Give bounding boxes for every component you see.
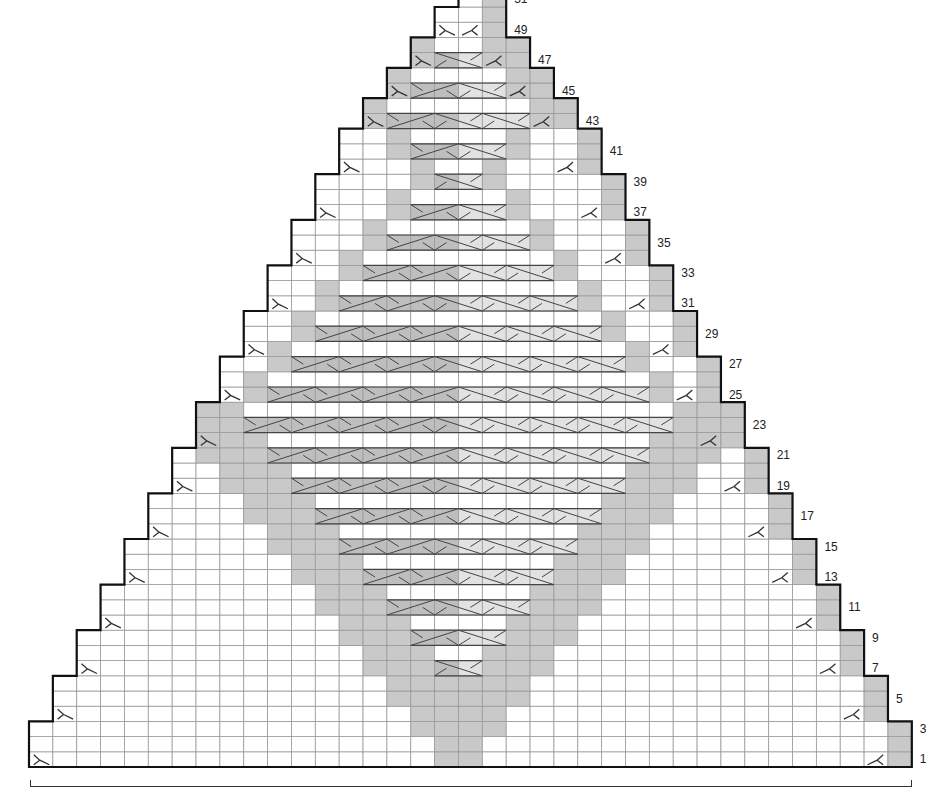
stitch-cell bbox=[482, 691, 506, 706]
stitch-cell bbox=[411, 37, 435, 52]
stitch-cell bbox=[482, 737, 506, 752]
stitch-cell bbox=[148, 615, 172, 630]
stitch-cell bbox=[435, 281, 459, 296]
stitch-cell bbox=[888, 721, 912, 736]
stitch-cell bbox=[578, 569, 602, 584]
stitch-cell bbox=[435, 311, 459, 326]
stitch-cell bbox=[315, 721, 339, 736]
stitch-cell bbox=[387, 433, 411, 448]
stitch-cell bbox=[602, 311, 626, 326]
stitch-cell bbox=[244, 372, 268, 387]
row-label: 17 bbox=[801, 510, 814, 522]
stitch-cell bbox=[244, 615, 268, 630]
stitch-cell bbox=[101, 721, 125, 736]
stitch-cell bbox=[458, 493, 482, 508]
stitch-cell bbox=[554, 433, 578, 448]
stitch-cell bbox=[268, 752, 292, 767]
stitch-cell bbox=[291, 752, 315, 767]
stitch-cell bbox=[339, 645, 363, 660]
stitch-cell bbox=[101, 585, 125, 600]
stitch-cell bbox=[721, 448, 745, 463]
stitch-cell bbox=[602, 554, 626, 569]
stitch-cell bbox=[745, 615, 769, 630]
stitch-cell bbox=[363, 220, 387, 235]
stitch-cell bbox=[291, 554, 315, 569]
stitch-cell bbox=[769, 600, 793, 615]
stitch-cell bbox=[578, 600, 602, 615]
stitch-cell bbox=[745, 539, 769, 554]
stitch-cell bbox=[506, 98, 530, 113]
stitch-cell bbox=[745, 706, 769, 721]
stitch-cell bbox=[387, 205, 411, 220]
stitch-cell bbox=[506, 433, 530, 448]
stitch-cell bbox=[124, 752, 148, 767]
stitch-cell bbox=[864, 721, 888, 736]
stitch-cell bbox=[745, 645, 769, 660]
stitch-cell bbox=[244, 311, 268, 326]
stitch-cell bbox=[435, 7, 459, 22]
stitch-cell bbox=[387, 311, 411, 326]
stitch-cell bbox=[458, 691, 482, 706]
stitch-cell bbox=[458, 98, 482, 113]
stitch-cell bbox=[626, 645, 650, 660]
stitch-cell bbox=[482, 493, 506, 508]
stitch-cell bbox=[697, 402, 721, 417]
stitch-cell bbox=[673, 737, 697, 752]
stitch-cell bbox=[196, 585, 220, 600]
stitch-cell bbox=[482, 37, 506, 52]
stitch-cell bbox=[339, 493, 363, 508]
stitch-cell bbox=[697, 752, 721, 767]
stitch-cell bbox=[315, 706, 339, 721]
stitch-cell bbox=[578, 721, 602, 736]
stitch-cell bbox=[411, 220, 435, 235]
stitch-cell bbox=[816, 676, 840, 691]
stitch-cell bbox=[530, 402, 554, 417]
stitch-cell bbox=[148, 600, 172, 615]
stitch-cell bbox=[268, 539, 292, 554]
stitch-cell bbox=[697, 387, 721, 402]
stitch-cell bbox=[196, 493, 220, 508]
stitch-cell bbox=[793, 554, 817, 569]
stitch-cell bbox=[315, 569, 339, 584]
stitch-cell bbox=[124, 645, 148, 660]
stitch-cell bbox=[339, 265, 363, 280]
stitch-cell bbox=[101, 661, 125, 676]
stitch-cell bbox=[530, 752, 554, 767]
stitch-cell bbox=[554, 235, 578, 250]
stitch-cell bbox=[602, 706, 626, 721]
stitch-cell bbox=[506, 463, 530, 478]
stitch-cell bbox=[626, 235, 650, 250]
stitch-cell bbox=[482, 311, 506, 326]
stitch-cell bbox=[721, 493, 745, 508]
stitch-cell bbox=[291, 372, 315, 387]
stitch-cell bbox=[458, 341, 482, 356]
stitch-cell bbox=[506, 159, 530, 174]
stitch-cell bbox=[458, 752, 482, 767]
stitch-cell bbox=[387, 737, 411, 752]
stitch-cell bbox=[649, 737, 673, 752]
stitch-cell bbox=[291, 737, 315, 752]
stitch-cell bbox=[244, 661, 268, 676]
stitch-cell bbox=[148, 509, 172, 524]
stitch-cell bbox=[363, 645, 387, 660]
stitch-cell bbox=[578, 402, 602, 417]
stitch-cell bbox=[148, 676, 172, 691]
stitch-cell bbox=[244, 463, 268, 478]
stitch-cell bbox=[482, 0, 506, 7]
stitch-cell bbox=[745, 585, 769, 600]
stitch-cell bbox=[793, 737, 817, 752]
stitch-cell bbox=[172, 554, 196, 569]
stitch-cell bbox=[339, 661, 363, 676]
stitch-cell bbox=[291, 220, 315, 235]
stitch-cell bbox=[172, 509, 196, 524]
stitch-cell bbox=[530, 68, 554, 83]
stitch-cell bbox=[458, 68, 482, 83]
stitch-cell bbox=[196, 721, 220, 736]
stitch-cell bbox=[649, 630, 673, 645]
stitch-cell bbox=[458, 706, 482, 721]
stitch-cell bbox=[124, 630, 148, 645]
row-label: 15 bbox=[824, 541, 837, 553]
width-bracket bbox=[30, 786, 912, 787]
stitch-cell bbox=[435, 68, 459, 83]
stitch-cell bbox=[291, 706, 315, 721]
